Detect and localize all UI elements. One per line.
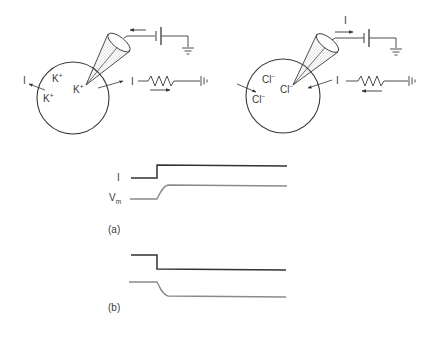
right-battery-circuit: I xyxy=(332,15,402,55)
left-outward-current-arrow-icon xyxy=(98,81,123,88)
ground-icon xyxy=(201,76,207,86)
ground-icon xyxy=(409,76,415,86)
ion-label: K+ xyxy=(43,92,54,104)
right-resistor-circuit: I xyxy=(308,75,415,91)
trace-panel-a: I Vm (a) xyxy=(108,165,287,235)
svg-text:I: I xyxy=(344,15,347,26)
ion-label: Cl− xyxy=(252,93,265,105)
voltage-trace-a xyxy=(130,185,287,199)
right-inward-current-arrow-icon xyxy=(308,80,332,88)
left-resistor-circuit: I xyxy=(98,76,207,90)
voltage-trace-b xyxy=(129,282,286,297)
ion-label: Cl− xyxy=(280,83,293,95)
right-cell-panel: I I Cl− Cl− Cl− xyxy=(237,15,415,133)
ground-icon xyxy=(390,49,402,55)
ion-label: K+ xyxy=(73,83,84,95)
left-pipette-icon xyxy=(86,30,133,85)
ion-label: K+ xyxy=(52,72,63,84)
svg-text:I: I xyxy=(23,75,26,86)
svg-text:I: I xyxy=(131,76,134,87)
svg-text:(a): (a) xyxy=(108,224,120,235)
left-efflux-arrow-icon xyxy=(29,84,45,90)
current-trace-a xyxy=(131,165,287,178)
current-trace-b xyxy=(131,255,286,270)
ion-label: Cl− xyxy=(262,73,275,85)
svg-text:I: I xyxy=(336,75,339,86)
ground-icon xyxy=(182,48,194,54)
vm-label: Vm xyxy=(109,192,121,205)
svg-text:I: I xyxy=(117,172,120,183)
left-battery-circuit xyxy=(124,27,194,54)
trace-panel-b: (b) xyxy=(108,255,286,313)
svg-text:(b): (b) xyxy=(108,302,120,313)
left-cell-panel: I K+ K+ K+ I xyxy=(23,27,207,134)
diagram-canvas: I K+ K+ K+ I I xyxy=(0,0,434,337)
